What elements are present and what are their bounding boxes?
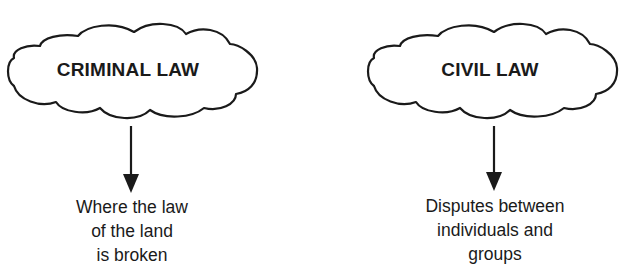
criminal-law-arrow-icon xyxy=(123,126,139,193)
description-line: is broken xyxy=(76,243,188,267)
description-line: of the land xyxy=(76,219,188,243)
description-line: individuals and xyxy=(425,218,564,242)
civil-law-title: CIVIL LAW xyxy=(441,59,539,81)
criminal-law-description: Where the law of the land is broken xyxy=(76,195,188,267)
criminal-law-title: CRIMINAL LAW xyxy=(57,59,199,81)
description-line: groups xyxy=(425,242,564,266)
civil-law-description: Disputes between individuals and groups xyxy=(425,194,564,266)
description-line: Where the law xyxy=(76,195,188,219)
civil-law-arrow-icon xyxy=(486,126,502,191)
description-line: Disputes between xyxy=(425,194,564,218)
